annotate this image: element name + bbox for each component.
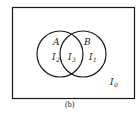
figure-caption: (b) <box>65 100 75 109</box>
svg-text:2: 2 <box>55 56 60 63</box>
region-i2: I 2 <box>51 52 60 63</box>
region-i3: I 3 <box>67 52 76 63</box>
venn-diagram: A B I 2 I 3 I 1 I 0 (b) <box>0 0 140 115</box>
svg-text:1: 1 <box>93 56 97 63</box>
region-i1: I 1 <box>88 52 97 63</box>
set-a-label: A <box>52 37 60 47</box>
set-b-label: B <box>83 37 91 47</box>
svg-text:0: 0 <box>114 81 118 88</box>
svg-text:3: 3 <box>72 56 76 63</box>
region-i0: I 0 <box>109 77 118 88</box>
